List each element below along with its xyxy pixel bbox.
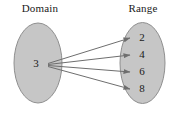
domain-element-3: 3 [33,57,39,69]
range-element-2: 2 [139,31,145,43]
figure-canvas: Domain Range 3 2 4 6 8 [0,0,175,114]
range-element-6: 6 [139,65,145,77]
mapping-diagram: 3 2 4 6 8 [0,0,175,114]
range-element-8: 8 [139,82,145,94]
range-element-4: 4 [139,48,145,60]
